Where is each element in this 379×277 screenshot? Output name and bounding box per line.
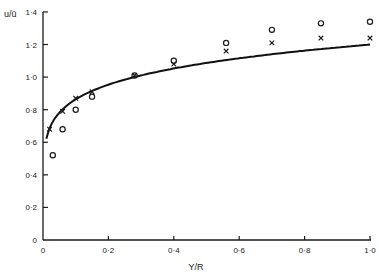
x-tick-label: 0 — [41, 246, 46, 255]
circle-marker — [73, 107, 78, 112]
y-axis-label: u/ū — [4, 9, 17, 19]
x-tick-label: 0·8 — [299, 246, 311, 255]
circle-marker — [269, 27, 274, 32]
circle-marker — [50, 153, 55, 158]
cross-marker — [368, 36, 373, 41]
cross-marker — [270, 41, 275, 46]
circle-marker — [171, 58, 176, 63]
x-axis-label: Y/R — [188, 262, 204, 272]
cross-marker — [319, 36, 324, 41]
x-tick-label: 0·4 — [168, 246, 180, 255]
circle-marker — [318, 21, 323, 26]
x-tick-label: 1·0 — [364, 246, 376, 255]
y-tick-label: 1·2 — [25, 41, 37, 50]
curve-line — [46, 45, 370, 139]
y-tick-label: 0 — [33, 236, 38, 245]
y-tick-label: 1·0 — [25, 73, 37, 82]
circle-marker — [89, 94, 94, 99]
circle-marker — [367, 19, 372, 24]
circle-marker — [224, 40, 229, 45]
x-tick-label: 0·2 — [103, 246, 115, 255]
cross-marker — [224, 49, 229, 54]
y-tick-label: 0·4 — [25, 171, 37, 180]
x-ticks: 00·20·40·60·81·0 — [41, 236, 377, 255]
y-ticks: 00·20·40·60·81·01·21·4 — [25, 8, 48, 245]
circle-marker — [60, 127, 65, 132]
chart: 00·20·40·60·81·01·21·4 00·20·40·60·81·0 … — [0, 0, 379, 277]
y-tick-label: 0·8 — [25, 106, 37, 115]
y-tick-label: 1·4 — [25, 8, 37, 17]
fitted-curve — [46, 45, 370, 139]
x-tick-label: 0·6 — [233, 246, 245, 255]
y-tick-label: 0·6 — [25, 138, 37, 147]
axes — [43, 12, 371, 240]
y-tick-label: 0·2 — [25, 203, 37, 212]
